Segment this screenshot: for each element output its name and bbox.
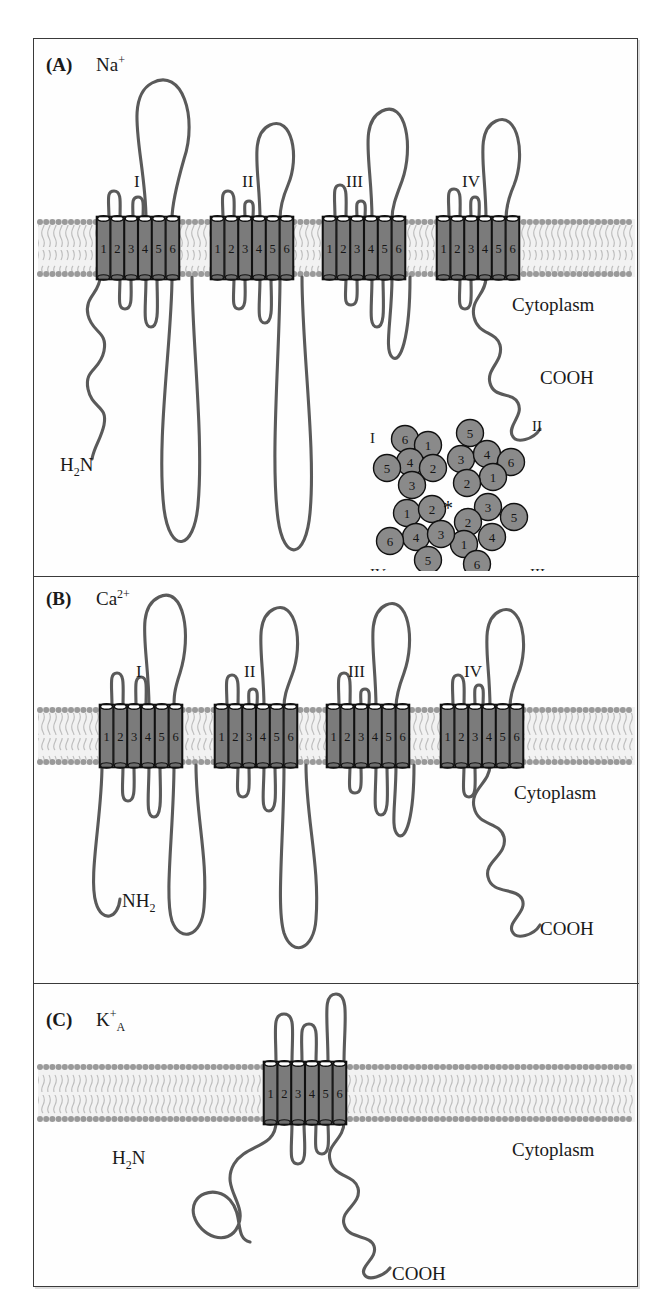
lipid-head-bead <box>198 707 204 713</box>
lipid-head-bead <box>583 1116 589 1122</box>
lipid-head-bead <box>366 1064 372 1070</box>
segment-number-2: 2 <box>340 242 346 256</box>
lipid-head-bead <box>434 759 440 765</box>
lipid-head-bead <box>428 707 434 713</box>
lipid-head-bead <box>483 1116 489 1122</box>
lipid-head-bead <box>93 1116 99 1122</box>
lipid-head-bead <box>570 271 576 277</box>
lipid-head-bead <box>576 1116 582 1122</box>
lipid-head-bead <box>558 219 564 225</box>
lipid-head-bead <box>545 759 551 765</box>
lipid-head-bead <box>161 1116 167 1122</box>
segment-number-2: 2 <box>117 730 123 744</box>
polypeptide-chain-c <box>193 994 390 1278</box>
lipid-head-bead <box>390 1064 396 1070</box>
panel-b-domain-roman-3: III <box>348 662 365 681</box>
lipid-head-bead <box>583 1064 589 1070</box>
segment-number-1: 1 <box>218 730 224 744</box>
lipid-head-bead <box>434 707 440 713</box>
lipid-head-bead <box>490 1116 496 1122</box>
lipid-head-bead <box>626 219 632 225</box>
lipid-head-bead <box>111 1064 117 1070</box>
lipid-head-bead <box>465 1064 471 1070</box>
lipid-head-bead <box>539 219 545 225</box>
lipid-head-bead <box>595 1116 601 1122</box>
segment-number-4: 4 <box>260 730 267 744</box>
segment-number-3: 3 <box>468 242 474 256</box>
lipid-head-bead <box>415 1064 421 1070</box>
lipid-head-bead <box>111 1116 117 1122</box>
panel-b-canvas: 123456123456123456123456 (B) Ca2+ I II I… <box>34 577 639 979</box>
lipid-head-bead <box>310 707 316 713</box>
lipid-head-bead <box>496 1064 502 1070</box>
lipid-head-bead <box>620 707 626 713</box>
lipid-head-bead <box>124 1064 130 1070</box>
lipid-head-bead <box>533 219 539 225</box>
pore-subunit-number: 6 <box>387 534 394 549</box>
lipid-head-bead <box>198 1116 204 1122</box>
segment-number-1: 1 <box>103 730 109 744</box>
lipid-head-bead <box>409 1116 415 1122</box>
lipid-head-bead <box>198 759 204 765</box>
lipid-head-bead <box>483 1064 489 1070</box>
lipid-head-bead <box>607 707 613 713</box>
panel-a-ion-label: Na+ <box>96 53 125 75</box>
lipid-head-bead <box>217 1064 223 1070</box>
lipid-head-bead <box>56 1116 62 1122</box>
lipid-head-bead <box>607 1116 613 1122</box>
lipid-head-bead <box>521 271 527 277</box>
pore-subunit-number: 6 <box>474 557 481 571</box>
lipid-head-bead <box>576 271 582 277</box>
panel-a-canvas: 123456123456123456123456 (A) Na+ I II II… <box>34 39 639 571</box>
segment-number-5: 5 <box>386 730 392 744</box>
segment-number-6: 6 <box>513 730 519 744</box>
segment-number-3: 3 <box>358 730 364 744</box>
panel-b: 123456123456123456123456 (B) Ca2+ I II I… <box>34 577 637 977</box>
segment-number-1: 1 <box>440 242 446 256</box>
lipid-head-bead <box>366 1116 372 1122</box>
lipid-head-bead <box>186 707 192 713</box>
lipid-head-bead <box>527 707 533 713</box>
lipid-head-bead <box>564 1064 570 1070</box>
segment-number-2: 2 <box>232 730 238 744</box>
lipid-head-bead <box>558 707 564 713</box>
lipid-head-bead <box>80 707 86 713</box>
lipid-head-bead <box>49 1064 55 1070</box>
lipid-head-bead <box>130 1116 136 1122</box>
lipid-head-bead <box>421 759 427 765</box>
lipid-head-bead <box>161 1064 167 1070</box>
lipid-head-bead <box>564 759 570 765</box>
panel-a-c-terminus-label: COOH <box>540 367 594 388</box>
panel-c-canvas: 123456 (C) K+A Cytoplasm H2N COOH <box>34 984 639 1287</box>
lipid-head-bead <box>583 759 589 765</box>
lipid-head-bead <box>421 271 427 277</box>
lipid-head-bead <box>155 1116 161 1122</box>
lipid-head-bead <box>37 707 43 713</box>
lipid-head-bead <box>99 1064 105 1070</box>
lipid-head-bead <box>614 707 620 713</box>
lipid-head-bead <box>552 271 558 277</box>
lipid-head-bead <box>620 1116 626 1122</box>
pore-subunit-number: 4 <box>407 455 414 470</box>
lipid-head-bead <box>583 219 589 225</box>
lipid-head-bead <box>359 1064 365 1070</box>
segment-number-1: 1 <box>330 730 336 744</box>
lipid-head-bead <box>428 1116 434 1122</box>
segment-number-3: 3 <box>246 730 252 744</box>
panel-b-c-terminus-label: COOH <box>540 918 594 939</box>
lipid-head-bead <box>539 707 545 713</box>
lipid-head-bead <box>43 1064 49 1070</box>
pore-subunit-number: 3 <box>485 500 492 515</box>
lipid-head-bead <box>614 1064 620 1070</box>
lipid-head-bead <box>421 1116 427 1122</box>
lipid-head-bead <box>620 759 626 765</box>
lipid-head-bead <box>105 1064 111 1070</box>
lipid-head-bead <box>310 219 316 225</box>
lipid-head-bead <box>136 1064 142 1070</box>
lipid-head-bead <box>56 1064 62 1070</box>
lipid-head-bead <box>80 759 86 765</box>
segment-number-6: 6 <box>336 1087 342 1101</box>
lipid-head-bead <box>564 1116 570 1122</box>
lipid-head-bead <box>204 1064 210 1070</box>
lipid-head-bead <box>626 271 632 277</box>
